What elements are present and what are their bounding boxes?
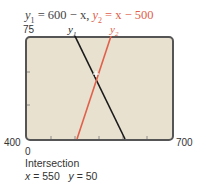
y-axis-ticks <box>27 72 30 105</box>
xmax-label: 700 <box>176 137 193 148</box>
y2-equation: y2 = x − 500 <box>92 8 153 22</box>
plot-area <box>25 36 174 141</box>
y-value: = 50 <box>74 170 98 182</box>
y2-rhs: = x − 500 <box>102 8 154 22</box>
intersection-coordinates: x = 550 y = 50 <box>25 170 97 182</box>
intersection-title: Intersection <box>25 157 79 169</box>
x-axis-ticks <box>51 136 147 139</box>
xmin-label: 400 <box>4 137 21 148</box>
ymin-label: 0 <box>25 146 31 157</box>
y1-rhs: = 600 − x, <box>35 8 93 22</box>
ymax-label: 75 <box>23 24 34 35</box>
y1-equation: y1 = 600 − x, <box>25 8 92 22</box>
equation-header: y1 = 600 − x, y2 = x − 500 <box>25 8 154 25</box>
y1-line <box>72 36 125 139</box>
x-value: = 550 <box>30 170 60 182</box>
